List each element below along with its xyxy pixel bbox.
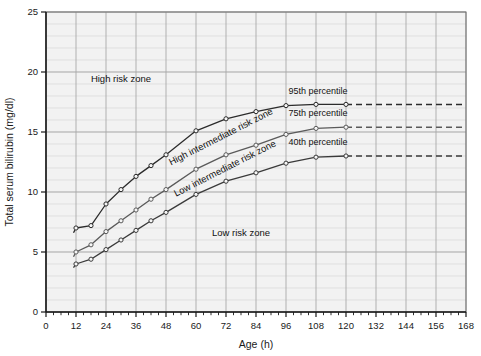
annotation-high-risk-zone: High risk zone	[91, 73, 151, 84]
x-tick-label: 132	[368, 320, 384, 331]
data-point-marker	[344, 102, 348, 106]
data-point-marker	[89, 257, 93, 261]
data-point-marker	[224, 179, 228, 183]
data-point-marker	[119, 219, 123, 223]
data-point-marker	[194, 192, 198, 196]
y-axis-label: Total serum bilirubin (mg/dl)	[3, 98, 15, 227]
data-point-marker	[224, 117, 228, 121]
data-point-marker	[74, 250, 78, 254]
data-point-marker	[149, 197, 153, 201]
x-tick-label: 72	[221, 320, 232, 331]
data-point-marker	[284, 104, 288, 108]
data-point-marker	[314, 126, 318, 130]
x-tick-label: 84	[251, 320, 262, 331]
y-tick-label: 0	[33, 306, 38, 317]
data-point-marker	[284, 161, 288, 165]
data-point-marker	[74, 226, 78, 230]
y-tick-label: 10	[27, 186, 38, 197]
x-tick-label: 60	[191, 320, 202, 331]
x-tick-label: 144	[398, 320, 414, 331]
data-point-marker	[344, 125, 348, 129]
y-tick-label: 20	[27, 66, 38, 77]
x-tick-label: 108	[308, 320, 324, 331]
data-point-marker	[74, 262, 78, 266]
x-tick-label: 120	[338, 320, 354, 331]
x-tick-label: 168	[458, 320, 474, 331]
data-point-marker	[104, 248, 108, 252]
annotation-low-risk-zone: Low risk zone	[212, 227, 270, 238]
data-point-marker	[314, 155, 318, 159]
data-point-marker	[89, 224, 93, 228]
y-tick-label: 15	[27, 126, 38, 137]
data-point-marker	[119, 188, 123, 192]
annotation-series-label-40: 40th percentile	[289, 137, 348, 147]
x-tick-label: 96	[281, 320, 292, 331]
data-point-marker	[224, 153, 228, 157]
data-point-marker	[104, 230, 108, 234]
data-point-marker	[89, 243, 93, 247]
data-point-marker	[344, 154, 348, 158]
y-tick-label: 25	[27, 6, 38, 17]
data-point-marker	[134, 228, 138, 232]
data-point-marker	[314, 102, 318, 106]
x-tick-label: 156	[428, 320, 444, 331]
data-point-marker	[134, 174, 138, 178]
annotation-series-label-95: 95th percentile	[289, 86, 348, 96]
data-point-marker	[164, 210, 168, 214]
bilirubin-nomogram-chart: High risk zoneHigh intermediate risk zon…	[0, 0, 481, 356]
data-point-marker	[284, 132, 288, 136]
annotation-series-label-75: 75th percentile	[289, 108, 348, 118]
data-point-marker	[254, 171, 258, 175]
x-tick-label: 24	[101, 320, 112, 331]
data-point-marker	[149, 219, 153, 223]
data-point-marker	[164, 188, 168, 192]
x-tick-label: 12	[71, 320, 82, 331]
data-point-marker	[194, 167, 198, 171]
data-point-marker	[104, 202, 108, 206]
x-tick-label: 0	[43, 320, 48, 331]
x-tick-label: 48	[161, 320, 172, 331]
data-point-marker	[134, 208, 138, 212]
x-axis-label: Age (h)	[239, 338, 273, 350]
data-point-marker	[119, 238, 123, 242]
y-tick-label: 5	[33, 246, 38, 257]
x-tick-label: 36	[131, 320, 142, 331]
data-point-marker	[149, 164, 153, 168]
data-point-marker	[194, 129, 198, 133]
